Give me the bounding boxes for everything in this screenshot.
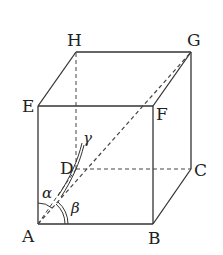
angle-beta-arc-inner: [56, 204, 65, 224]
vertex-label-a: A: [21, 226, 35, 246]
angle-label-alpha: α: [42, 184, 52, 202]
vertex-label-d: D: [60, 158, 74, 178]
vertex-label-g: G: [187, 30, 201, 50]
cube-diagram: H G E F D C A B α β γ: [0, 0, 223, 255]
angle-alpha-arc: [38, 203, 52, 208]
vertex-label-b: B: [148, 228, 161, 248]
edge-fg: [153, 52, 191, 106]
diagonal-ag: [38, 52, 191, 224]
angle-label-beta: β: [70, 199, 80, 217]
vertex-label-h: H: [67, 30, 82, 50]
edge-eh: [38, 52, 76, 106]
vertex-label-e: E: [22, 96, 34, 116]
angle-label-gamma: γ: [83, 129, 92, 147]
vertex-label-f: F: [156, 104, 168, 124]
vertex-label-c: C: [194, 160, 207, 180]
edge-bc: [153, 169, 191, 224]
